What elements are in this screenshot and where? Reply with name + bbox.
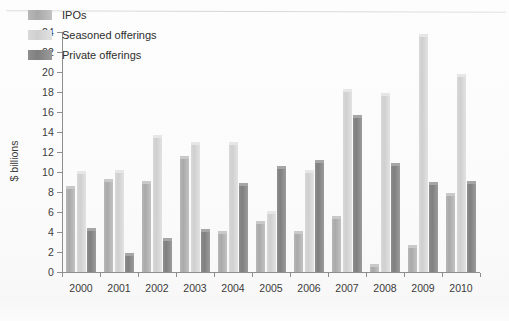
chart-figure: $ billions 024681012141618202224 2000200… [0,0,509,321]
bar-highlight-cap [115,170,124,173]
bar-highlight-cap [419,34,428,37]
bar-group [332,32,362,272]
x-tick-mark [480,273,481,277]
bar-ipos [408,245,417,272]
bar-highlight-cap [104,179,113,182]
bar-highlight-cap [391,163,400,166]
x-tick-label: 2005 [259,282,282,294]
bar-private-offerings [87,228,96,272]
x-tick-mark [252,273,253,277]
bar-highlight-cap [381,93,390,96]
bottom-margin-area [0,296,509,321]
bar-highlight-cap [408,245,417,248]
x-tick-mark [366,273,367,277]
bar-ipos [256,221,265,272]
y-tick-label: 10 [42,166,54,178]
bar-highlight-cap [370,264,379,267]
legend-item: Seasoned offerings [28,26,157,44]
bar-private-offerings [163,238,172,272]
bar-group [408,32,438,272]
bar-highlight-cap [218,231,227,234]
bar-seasoned-offerings [457,74,466,272]
x-tick-label: 2006 [297,282,320,294]
bar-highlight-cap [201,229,210,232]
x-tick-label: 2007 [335,282,358,294]
x-tick-mark [176,273,177,277]
y-axis-line [62,32,63,273]
bar-highlight-cap [429,182,438,185]
y-tick-label: 8 [48,186,54,198]
y-axis-title: $ billions [8,140,20,181]
bar-group [66,32,96,272]
bar-group [104,32,134,272]
bar-highlight-cap [163,238,172,241]
plot-area: 024681012141618202224 200020012002200320… [62,32,480,273]
bar-ipos [66,186,75,272]
bar-seasoned-offerings [267,211,276,272]
y-tick-mark [57,132,62,133]
y-tick-mark [57,112,62,113]
y-tick-mark [57,92,62,93]
x-tick-label: 2002 [145,282,168,294]
y-tick-mark [57,72,62,73]
bar-highlight-cap [315,160,324,163]
bar-private-offerings [315,160,324,272]
y-tick-mark [57,212,62,213]
bar-highlight-cap [467,181,476,184]
bar-private-offerings [125,253,134,272]
bar-highlight-cap [153,135,162,138]
y-tick-label: 6 [48,206,54,218]
y-tick-mark [57,152,62,153]
bar-private-offerings [467,181,476,272]
x-axis-line [62,272,480,273]
bar-ipos [370,264,379,272]
bar-highlight-cap [66,186,75,189]
chart-legend: IPOsSeasoned offeringsPrivate offerings [28,6,157,66]
bar-ipos [446,193,455,272]
bar-seasoned-offerings [343,89,352,272]
bar-ipos [180,156,189,272]
bar-private-offerings [201,229,210,272]
bar-group [142,32,172,272]
bar-ipos [332,216,341,272]
x-tick-label: 2009 [411,282,434,294]
y-tick-mark [57,252,62,253]
y-tick-mark [57,192,62,193]
x-tick-mark [404,273,405,277]
bar-highlight-cap [267,211,276,214]
bar-highlight-cap [229,142,238,145]
bar-seasoned-offerings [229,142,238,272]
bar-highlight-cap [77,171,86,174]
bar-highlight-cap [457,74,466,77]
bar-highlight-cap [239,183,248,186]
x-tick-label: 2000 [69,282,92,294]
bar-group [180,32,210,272]
legend-swatch-icon [28,30,52,40]
bar-group [370,32,400,272]
x-tick-label: 2008 [373,282,396,294]
bar-ipos [294,231,303,272]
bar-seasoned-offerings [419,34,428,272]
x-tick-label: 2003 [183,282,206,294]
x-tick-mark [62,273,63,277]
y-tick-label: 0 [48,266,54,278]
bar-seasoned-offerings [191,142,200,272]
bar-highlight-cap [87,228,96,231]
bar-seasoned-offerings [153,135,162,272]
x-tick-label: 2001 [107,282,130,294]
legend-item: IPOs [28,6,157,24]
y-tick-label: 14 [42,126,54,138]
bar-highlight-cap [125,253,134,256]
x-tick-label: 2004 [221,282,244,294]
bar-ipos [218,231,227,272]
x-tick-mark [138,273,139,277]
bar-highlight-cap [256,221,265,224]
y-tick-label: 2 [48,246,54,258]
bar-seasoned-offerings [115,170,124,272]
bar-ipos [104,179,113,272]
bar-highlight-cap [142,181,151,184]
bar-seasoned-offerings [77,171,86,272]
bar-private-offerings [429,182,438,272]
bar-private-offerings [353,115,362,272]
bar-highlight-cap [191,142,200,145]
